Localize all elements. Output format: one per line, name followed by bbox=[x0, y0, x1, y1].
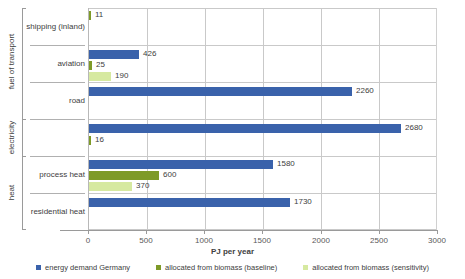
rowline-1 bbox=[89, 45, 436, 46]
bar-label-aviation-demand: 426 bbox=[143, 49, 156, 58]
category-label-shipping: shipping (inland) bbox=[26, 22, 85, 31]
legend-item-baseline[interactable]: allocated from biomass (baseline) bbox=[156, 263, 277, 272]
x-tick-1500 bbox=[262, 230, 263, 234]
x-tick-3000 bbox=[437, 230, 438, 234]
bar-label-process-baseline: 600 bbox=[163, 170, 176, 179]
legend-swatch-icon-demand bbox=[36, 265, 41, 270]
legend-swatch-icon-sensitivity bbox=[303, 265, 308, 270]
group-tick-electricity bbox=[22, 119, 23, 156]
category-separator-3 bbox=[30, 119, 85, 120]
bar-residential-demand bbox=[89, 198, 290, 207]
plot-area: 11 426 25 190 2260 2680 16 1580 600 370 … bbox=[88, 8, 437, 230]
x-tick-1000 bbox=[204, 230, 205, 234]
category-label-residential-heat: residential heat bbox=[31, 207, 85, 216]
group-tick-cap-1 bbox=[22, 119, 26, 120]
x-tick-500 bbox=[146, 230, 147, 234]
x-tick-2000 bbox=[321, 230, 322, 234]
legend-label-demand: energy demand Germany bbox=[45, 263, 130, 272]
bar-process-demand bbox=[89, 160, 273, 169]
category-label-road: road bbox=[69, 96, 85, 105]
rowline-top bbox=[89, 8, 436, 9]
bar-road-demand bbox=[89, 87, 352, 96]
x-tick-label-0: 0 bbox=[86, 236, 90, 245]
group-tick-transport bbox=[22, 8, 23, 119]
bar-label-residential-demand: 1730 bbox=[294, 197, 312, 206]
bar-shipping-baseline bbox=[89, 11, 91, 20]
rowline-3 bbox=[89, 119, 436, 120]
legend-label-baseline: allocated from biomass (baseline) bbox=[165, 263, 277, 272]
group-tick-cap-2 bbox=[22, 156, 26, 157]
x-axis-title: PJ per year bbox=[0, 247, 465, 256]
bar-process-sensitivity bbox=[89, 182, 132, 191]
group-tick-heat bbox=[22, 156, 23, 229]
legend-item-sensitivity[interactable]: allocated from biomass (sensitivity) bbox=[303, 263, 429, 272]
group-tick-cap-bottom bbox=[22, 229, 26, 230]
bar-label-aviation-baseline: 25 bbox=[96, 60, 105, 69]
bar-aviation-baseline bbox=[89, 61, 92, 70]
category-separator-2 bbox=[30, 82, 85, 83]
legend-item-demand[interactable]: energy demand Germany bbox=[36, 263, 130, 272]
rowline-5 bbox=[89, 193, 436, 194]
bar-chart: 11 426 25 190 2260 2680 16 1580 600 370 … bbox=[0, 0, 465, 279]
rowline-2 bbox=[89, 82, 436, 83]
x-tick-label-500: 500 bbox=[139, 236, 152, 245]
bar-electricity-baseline bbox=[89, 136, 91, 145]
bar-electricity-demand bbox=[89, 124, 401, 133]
category-label-aviation: aviation bbox=[57, 59, 85, 68]
legend: energy demand Germany allocated from bio… bbox=[0, 260, 465, 274]
bar-label-process-demand: 1580 bbox=[277, 159, 295, 168]
x-tick-2500 bbox=[379, 230, 380, 234]
category-separator-4 bbox=[30, 156, 85, 157]
group-label-transport: fuel of transport bbox=[7, 27, 16, 97]
x-tick-0 bbox=[88, 230, 89, 234]
bar-aviation-demand bbox=[89, 50, 139, 59]
category-separator-5 bbox=[30, 193, 85, 194]
bar-label-aviation-sensitivity: 190 bbox=[115, 71, 128, 80]
legend-swatch-icon-baseline bbox=[156, 265, 161, 270]
bar-label-process-sensitivity: 370 bbox=[136, 181, 149, 190]
category-separator-1 bbox=[30, 45, 85, 46]
bar-label-electricity-baseline: 16 bbox=[95, 135, 104, 144]
bar-label-shipping-baseline: 11 bbox=[95, 10, 103, 19]
category-label-process-heat: process heat bbox=[39, 170, 85, 179]
x-tick-label-1000: 1000 bbox=[195, 236, 213, 245]
bar-process-baseline bbox=[89, 171, 159, 180]
x-tick-label-2500: 2500 bbox=[370, 236, 388, 245]
group-tick-cap-top bbox=[22, 8, 26, 9]
x-tick-label-1500: 1500 bbox=[253, 236, 271, 245]
x-tick-label-2000: 2000 bbox=[312, 236, 330, 245]
bar-aviation-sensitivity bbox=[89, 72, 111, 81]
bar-label-road-demand: 2260 bbox=[356, 86, 374, 95]
bar-label-electricity-demand: 2680 bbox=[405, 123, 423, 132]
rowline-4 bbox=[89, 156, 436, 157]
x-tick-label-3000: 3000 bbox=[428, 236, 446, 245]
x-axis-line bbox=[60, 230, 438, 231]
group-label-heat: heat bbox=[7, 158, 16, 228]
legend-label-sensitivity: allocated from biomass (sensitivity) bbox=[312, 263, 429, 272]
category-axis: shipping (inland) aviation road process … bbox=[0, 8, 85, 230]
